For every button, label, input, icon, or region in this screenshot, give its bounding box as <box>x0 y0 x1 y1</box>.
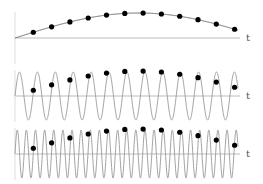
sample-point <box>49 24 54 29</box>
sample-point <box>214 80 219 85</box>
sample-point <box>104 70 109 75</box>
sample-point <box>195 133 200 138</box>
sample-point <box>232 143 237 148</box>
sample-point <box>122 127 127 132</box>
sample-point <box>159 69 164 74</box>
sample-point <box>86 73 91 78</box>
sample-point <box>214 22 219 27</box>
sample-point <box>86 131 91 136</box>
panel-high-frequency: t <box>15 126 250 180</box>
sample-point <box>86 15 91 20</box>
sample-point <box>49 140 54 145</box>
sample-point <box>31 146 36 151</box>
sample-point <box>195 75 200 80</box>
axis-label-t: t <box>246 90 250 101</box>
sample-point <box>141 10 146 15</box>
sample-point <box>67 135 72 140</box>
sample-point <box>122 69 127 74</box>
sample-point <box>159 127 164 132</box>
sinusoid-curve <box>15 13 238 38</box>
axis-label-t: t <box>246 32 250 43</box>
sample-point <box>31 30 36 35</box>
sample-point <box>177 72 182 77</box>
sample-point <box>49 82 54 87</box>
sample-point <box>232 27 237 32</box>
sample-point <box>141 126 146 131</box>
sample-point <box>195 17 200 22</box>
sample-point <box>177 14 182 19</box>
sample-point <box>104 128 109 133</box>
aliasing-diagram: t t t <box>0 0 263 184</box>
axis-label-t: t <box>246 148 250 159</box>
sample-point <box>67 77 72 82</box>
sample-point <box>31 88 36 93</box>
sample-point <box>122 11 127 16</box>
sample-point <box>177 130 182 135</box>
sample-point <box>214 138 219 143</box>
panel-low-frequency: t <box>15 10 250 64</box>
sample-point <box>104 12 109 17</box>
sample-point <box>141 68 146 73</box>
sample-point <box>67 19 72 24</box>
sample-point <box>232 85 237 90</box>
sample-point <box>159 11 164 16</box>
panel-medium-frequency: t <box>15 68 250 122</box>
